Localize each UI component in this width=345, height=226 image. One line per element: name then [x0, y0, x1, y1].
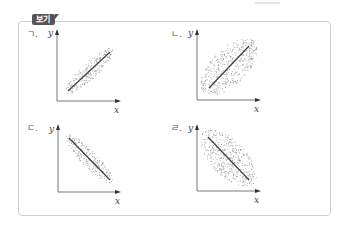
x-axis-label: x — [254, 195, 259, 205]
y-axis-arrow-icon — [195, 124, 199, 130]
scatter-plot-d: y x — [0, 0, 345, 226]
x-axis-arrow-icon — [255, 189, 261, 193]
y-axis-label: y — [187, 123, 194, 133]
